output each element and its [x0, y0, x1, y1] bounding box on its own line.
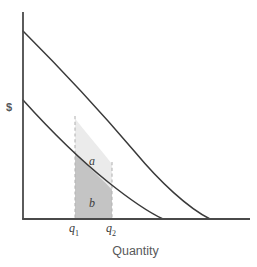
x-tick-q2-subscript: 2: [112, 229, 116, 238]
region-label-a: a: [89, 155, 95, 168]
x-axis-label: Quantity: [0, 244, 257, 259]
y-axis-label: $: [6, 101, 12, 114]
x-tick-label-q2: q2: [106, 222, 116, 239]
x-tick-q1-subscript: 1: [75, 229, 79, 238]
region-label-b: b: [89, 197, 95, 210]
x-tick-label-q1: q1: [69, 222, 79, 239]
chart-canvas: [0, 0, 257, 267]
demand-curve-figure: $ q1 q2 a b Quantity: [0, 0, 257, 267]
upper-demand-curve: [23, 31, 210, 219]
